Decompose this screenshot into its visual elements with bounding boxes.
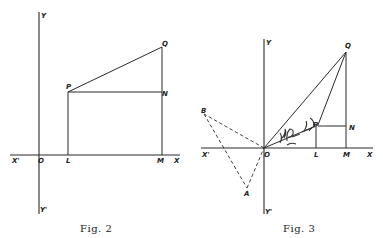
figure-caption: Fig. 3	[283, 223, 315, 234]
diagram-canvas: Y Q P N X' O L M X Y' Fig. 2	[0, 0, 383, 238]
label-l: L	[66, 157, 70, 165]
label-n: N	[162, 90, 168, 98]
label-x-prime: X'	[11, 157, 20, 165]
label-y-prime: Y'	[265, 208, 272, 216]
label-y: Y	[41, 12, 47, 20]
label-x-prime: X'	[201, 151, 210, 159]
label-p: P	[66, 83, 72, 91]
label-y: Y	[266, 39, 272, 47]
label-n: N	[349, 124, 355, 132]
figure-2: Y Q P N X' O L M X Y' Fig. 2	[10, 12, 180, 234]
label-y-prime: Y'	[40, 206, 47, 214]
segment-ao-dashed	[247, 148, 264, 188]
label-x: X	[366, 151, 373, 159]
label-a: A	[243, 190, 249, 198]
label-l: L	[314, 151, 318, 159]
label-p: P	[313, 121, 319, 129]
label-x: X	[173, 157, 180, 165]
label-q: Q	[345, 42, 351, 50]
segment-oq	[264, 52, 346, 148]
label-m: M	[343, 151, 350, 159]
label-q: Q	[162, 40, 168, 48]
segment-pq	[318, 52, 346, 125]
segment-ob-dashed	[204, 114, 264, 148]
figure-caption: Fig. 2	[80, 223, 112, 234]
segment-pq	[68, 47, 162, 92]
figure-3: Y Q P N X' O L M X B A Y' Fig. 3	[201, 39, 373, 234]
segment-ba-dashed	[204, 114, 247, 188]
label-m: M	[157, 157, 164, 165]
label-b: B	[201, 107, 206, 115]
label-o: O	[38, 157, 44, 165]
handwritten-annotation	[280, 118, 315, 145]
label-o: O	[264, 151, 270, 159]
